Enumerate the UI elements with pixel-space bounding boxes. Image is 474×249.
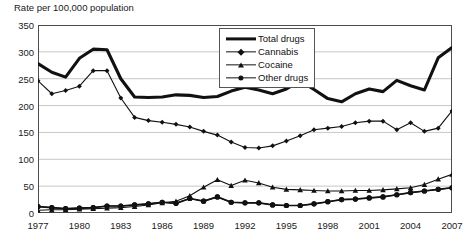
x-tick-label: 2007: [441, 220, 462, 231]
legend-label-cannabis: Cannabis: [258, 45, 298, 58]
y-tick-label: 250: [4, 73, 34, 84]
x-tick-label: 1980: [69, 220, 90, 231]
legend-line-total-drugs-icon: [224, 32, 258, 45]
x-tick-label: 1992: [234, 220, 255, 231]
legend-line-other-drugs-icon: [224, 71, 258, 84]
legend-item-total-drugs: Total drugs: [224, 32, 308, 45]
x-tick-label: 2001: [359, 220, 380, 231]
y-tick-label: 100: [4, 154, 34, 165]
x-tick-label: 1977: [27, 220, 48, 231]
chart-legend: Total drugs Cannabis Cocaine Other drugs: [219, 28, 315, 88]
legend-label-total-drugs: Total drugs: [258, 32, 304, 45]
y-tick-label: 200: [4, 100, 34, 111]
legend-line-cannabis-icon: [224, 45, 258, 58]
x-tick-label: 1986: [152, 220, 173, 231]
y-tick-label: 0: [4, 208, 34, 219]
legend-item-cannabis: Cannabis: [224, 45, 308, 58]
y-tick-label: 350: [4, 20, 34, 31]
y-tick-label: 300: [4, 46, 34, 57]
x-tick-label: 1983: [110, 220, 131, 231]
legend-item-cocaine: Cocaine: [224, 58, 308, 71]
legend-label-other-drugs: Other drugs: [258, 71, 308, 84]
y-axis-title: Rate per 100,000 population: [14, 2, 134, 13]
y-tick-label: 50: [4, 181, 34, 192]
legend-item-other-drugs: Other drugs: [224, 71, 308, 84]
x-tick-label: 1998: [317, 220, 338, 231]
x-tick-label: 1995: [276, 220, 297, 231]
y-tick-label: 150: [4, 127, 34, 138]
legend-line-cocaine-icon: [224, 58, 258, 71]
chart-container: Rate per 100,000 population 050100150200…: [0, 0, 474, 249]
x-tick-label: 1989: [193, 220, 214, 231]
legend-label-cocaine: Cocaine: [258, 58, 293, 71]
x-tick-label: 2004: [400, 220, 421, 231]
